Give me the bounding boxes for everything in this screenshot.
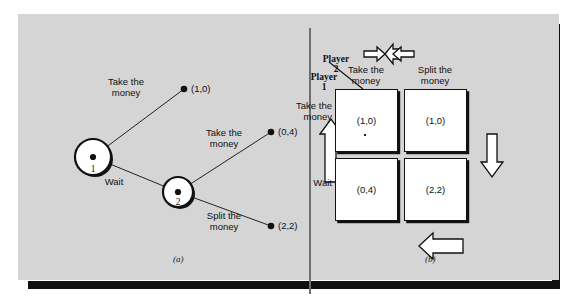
player-2-label-line1: Player	[323, 54, 349, 64]
caption-a: (a)	[173, 254, 184, 264]
matrix-cell-wait-take[interactable]: (0,4)	[335, 158, 398, 221]
col-header-line2: money	[421, 75, 450, 86]
node-1-point	[90, 154, 96, 160]
edge-label-wait-player1: Wait	[94, 176, 134, 187]
node-1-label: 1	[91, 164, 96, 174]
edge-label-take-the-money-player1: Take the money	[96, 76, 156, 98]
panel-a-game-tree: 1 2 Take the money Wait Take the money S…	[18, 14, 309, 280]
matrix-cell-value: (1,0)	[426, 115, 446, 126]
caption-b: (b)	[425, 254, 436, 264]
col-header-line2: money	[352, 75, 381, 86]
edge-label-line2: money	[112, 87, 141, 98]
terminal-dot-3	[268, 223, 275, 230]
matrix-cell-take-split[interactable]: (1,0)	[404, 89, 467, 152]
player-1-label-line2: 1	[322, 82, 327, 92]
equilibrium-marker-dot	[364, 134, 366, 136]
row-header-take-the-money: Take the money	[282, 100, 332, 122]
terminal-dot-2	[268, 129, 275, 136]
edge-label-line1: Take the	[206, 127, 242, 138]
terminal-payoff-2: (0,4)	[278, 126, 298, 137]
terminal-payoff-1: (1,0)	[191, 83, 211, 94]
edge-label-split-the-money-player2: Split the money	[194, 210, 254, 232]
row-header-line2: money	[303, 111, 332, 122]
matrix-cell-value: (1,0)	[357, 115, 377, 126]
figure-shadow-bottom	[28, 281, 560, 289]
edge-label-line2: money	[210, 138, 239, 149]
edge-label-line1: Wait	[105, 176, 124, 187]
right-down-arrow-icon	[481, 134, 503, 177]
figure-panel: 1 2 Take the money Wait Take the money S…	[18, 14, 559, 280]
node-2-point	[175, 189, 181, 195]
row-header-wait: Wait	[282, 177, 332, 188]
matrix-cell-take-take[interactable]: (1,0)	[335, 89, 398, 152]
terminal-dot-1	[181, 86, 188, 93]
panel-b-payoff-matrix: Player 2 Player 1 Take the money Split t…	[311, 14, 559, 280]
payoff-matrix: (1,0) (1,0) (0,4) (2,2)	[335, 89, 469, 223]
top-double-arrow-icon	[364, 44, 414, 64]
row-header-line1: Wait	[313, 177, 332, 188]
matrix-cell-wait-split[interactable]: (2,2)	[404, 158, 467, 221]
matrix-cell-value: (2,2)	[426, 184, 446, 195]
col-header-line1: Take the	[348, 64, 384, 75]
edge-label-line1: Split the	[207, 210, 241, 221]
col-header-line1: Split the	[418, 64, 452, 75]
edge-label-line1: Take the	[108, 76, 144, 87]
node-2-label: 2	[176, 197, 181, 207]
game-tree-graphic: 1 2	[18, 14, 309, 280]
edge-label-take-the-money-player2: Take the money	[194, 127, 254, 149]
row-header-line1: Take the	[296, 100, 332, 111]
col-header-take-the-money: Take the money	[330, 64, 402, 86]
terminal-payoff-3: (2,2)	[278, 220, 298, 231]
matrix-cell-value: (0,4)	[357, 184, 377, 195]
col-header-split-the-money: Split the money	[399, 64, 471, 86]
edge-label-line2: money	[210, 221, 239, 232]
